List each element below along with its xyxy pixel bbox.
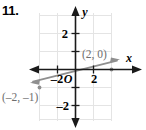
x-axis [29,65,142,73]
coordinate-plane-graph: –2 2 2 –2 O x y (2, 0) (–2, –1) [0,0,146,130]
y-axis-label: y [80,5,88,19]
point-label-negative2-negative1: (–2, –1) [2,91,39,104]
graph-figure: 11. [0,0,146,130]
y-tick-label-2: 2 [62,27,68,41]
x-axis-label: x [125,51,132,65]
y-axis [71,6,79,128]
x-tick-label-negative-2: –2 [50,72,64,86]
y-tick-label-negative-2: –2 [56,99,70,113]
x-tick-label-2: 2 [91,72,97,86]
data-point-marker [38,86,42,90]
origin-label: O [64,72,73,86]
point-label-2-0: (2, 0) [82,48,107,61]
